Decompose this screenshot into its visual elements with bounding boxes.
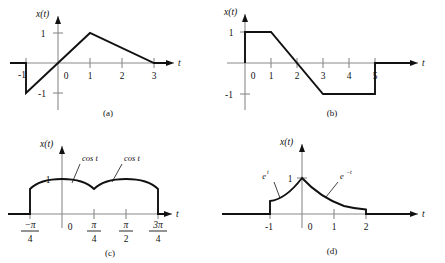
annotation-cos-right-c: cos t bbox=[124, 153, 140, 163]
x-tick-label-pi2-c: π 2 bbox=[119, 220, 133, 244]
y-axis-label-d: x(t) bbox=[279, 137, 293, 148]
annotation-leader-enegt-d bbox=[326, 182, 338, 197]
caption-a: (a) bbox=[103, 108, 113, 118]
x-tick-label-3-b: 3 bbox=[321, 71, 326, 81]
caption-d: (d) bbox=[327, 246, 338, 256]
x-tick-label-1-a: 1 bbox=[88, 71, 93, 81]
x-tick-label-negpi4-c: −π 4 bbox=[21, 220, 39, 244]
svg-text:−π: −π bbox=[24, 220, 35, 230]
annotation-e-to-t-d: e t bbox=[262, 169, 269, 181]
y-tick-label-neg1-a: -1 bbox=[38, 89, 46, 99]
y-axis-arrow-c bbox=[59, 146, 65, 154]
y-axis-arrow-b bbox=[242, 14, 248, 22]
y-tick-label-1-a: 1 bbox=[41, 29, 46, 39]
x-tick-label-3pi4-c: 3π 4 bbox=[149, 220, 167, 244]
x-tick-label-1-b: 1 bbox=[269, 71, 274, 81]
svg-text:4: 4 bbox=[28, 234, 33, 244]
x-axis-label-a: t bbox=[178, 58, 181, 68]
svg-text:π: π bbox=[92, 220, 97, 230]
x-tick-label-0-c: 0 bbox=[68, 222, 73, 232]
svg-text:4: 4 bbox=[92, 234, 97, 244]
x-tick-label-neg1-a: -1 bbox=[18, 70, 26, 80]
caption-c: (c) bbox=[105, 248, 115, 258]
y-axis-label-a: x(t) bbox=[35, 9, 49, 20]
svg-text:3π: 3π bbox=[152, 220, 163, 230]
caption-b: (b) bbox=[327, 108, 338, 118]
panel-b: x(t) t 1 -1 0 1 2 3 4 5 (b) bbox=[222, 0, 445, 125]
y-tick-label-1-b: 1 bbox=[229, 28, 234, 38]
x-tick-label-2-b: 2 bbox=[295, 71, 300, 81]
y-axis-arrow-a bbox=[55, 16, 61, 24]
panel-d: e t e −t x(t) t 1 -1 0 1 2 (d) bbox=[222, 128, 445, 263]
annotation-leader-et-d bbox=[274, 182, 280, 198]
annotation-e-to-neg-t-d: e −t bbox=[340, 169, 352, 181]
x-tick-label-0-b: 0 bbox=[251, 71, 256, 81]
x-axis-label-c: t bbox=[176, 209, 179, 219]
x-tick-label-2-a: 2 bbox=[120, 71, 125, 81]
annotation-cos-left-c: cos t bbox=[82, 153, 98, 163]
x-axis-label-d: t bbox=[422, 209, 425, 219]
x-tick-label-pi4-c: π 4 bbox=[87, 220, 101, 244]
y-tick-label-neg1-b: -1 bbox=[225, 90, 233, 100]
x-tick-label-0-d: 0 bbox=[308, 222, 313, 232]
y-axis-label-c: x(t) bbox=[39, 139, 53, 150]
panel-a: x(t) t 1 -1 -1 0 1 2 3 (a) bbox=[0, 0, 222, 125]
svg-text:−t: −t bbox=[346, 169, 352, 175]
x-tick-label-neg1-d: -1 bbox=[265, 222, 273, 232]
curve-d bbox=[222, 178, 412, 214]
x-tick-label-5-b: 5 bbox=[373, 71, 378, 81]
x-tick-label-3-a: 3 bbox=[152, 71, 157, 81]
x-tick-label-2-d: 2 bbox=[364, 222, 369, 232]
svg-text:e: e bbox=[262, 171, 266, 181]
figure-container: x(t) t 1 -1 -1 0 1 2 3 (a) bbox=[0, 0, 445, 263]
y-tick-label-1-c: 1 bbox=[46, 175, 51, 185]
x-tick-label-0-a: 0 bbox=[64, 71, 69, 81]
y-axis-arrow-d bbox=[299, 144, 305, 152]
svg-text:π: π bbox=[124, 220, 129, 230]
svg-text:t: t bbox=[267, 169, 269, 175]
x-tick-label-1-d: 1 bbox=[332, 222, 337, 232]
x-tick-label-4-b: 4 bbox=[347, 71, 352, 81]
x-axis-label-b: t bbox=[422, 58, 425, 68]
svg-text:2: 2 bbox=[124, 234, 129, 244]
y-axis-label-b: x(t) bbox=[223, 7, 237, 18]
svg-text:e: e bbox=[340, 171, 344, 181]
svg-text:4: 4 bbox=[156, 234, 161, 244]
curve-c bbox=[8, 179, 168, 214]
y-tick-label-1-d: 1 bbox=[288, 174, 293, 184]
panel-c: cos t cos t x(t) t 1 0 −π 4 π 4 π bbox=[0, 128, 222, 263]
